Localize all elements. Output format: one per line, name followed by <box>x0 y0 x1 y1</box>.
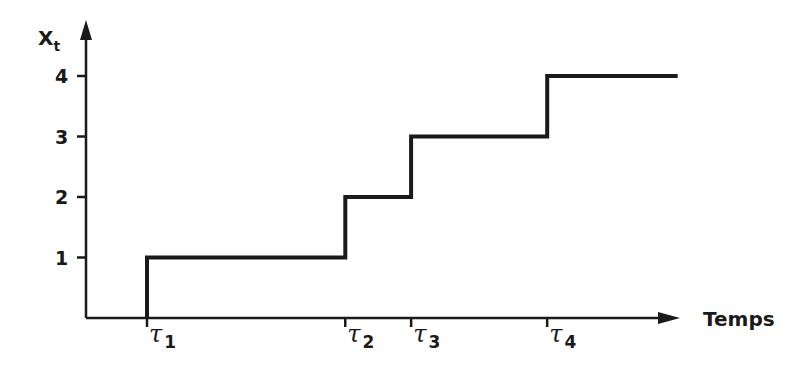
y-tick-label: 3 <box>55 126 68 148</box>
axes <box>80 20 680 324</box>
x-tick-label: τ4 <box>549 320 576 352</box>
step-series-line <box>147 76 678 318</box>
x-axis-label: Temps <box>703 307 775 331</box>
x-axis-arrow-icon <box>658 312 680 324</box>
y-ticks: 1234 <box>55 65 86 269</box>
x-tick-label: τ1 <box>149 320 176 352</box>
y-axis-label-subscript: t <box>53 38 60 54</box>
y-axis-label-main: X <box>38 26 54 50</box>
y-tick-label: 4 <box>55 65 68 87</box>
y-tick-label: 2 <box>55 186 68 208</box>
step-chart: 1234 τ1τ2τ3τ4 Xt Temps <box>0 0 804 370</box>
y-axis-arrow-icon <box>80 20 92 40</box>
y-tick-label: 1 <box>55 247 68 269</box>
x-tick-label: τ3 <box>413 320 440 352</box>
y-axis-label: Xt <box>38 26 60 54</box>
x-tick-label: τ2 <box>347 320 374 352</box>
x-ticks: τ1τ2τ3τ4 <box>147 318 576 352</box>
